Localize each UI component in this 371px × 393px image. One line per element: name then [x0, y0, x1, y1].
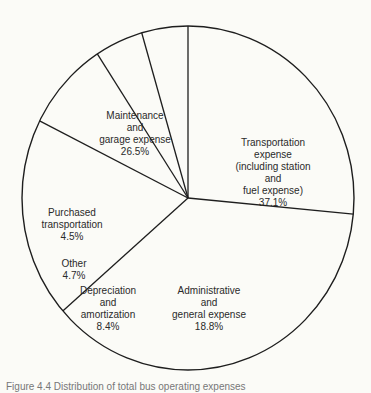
figure-caption: Figure 4.4 Distribution of total bus ope… — [6, 381, 246, 393]
label-maintenance: Maintenance and garage expense 26.5% — [99, 110, 171, 158]
label-other: Other 4.7% — [61, 258, 86, 282]
label-administrative: Administrative and general expense 18.8% — [172, 285, 246, 333]
label-depreciation: Depreciation and amortization 8.4% — [80, 285, 136, 333]
label-transportation: Transportation expense (including statio… — [235, 137, 310, 209]
label-purchased-transportation: Purchased transportation 4.5% — [41, 207, 102, 243]
